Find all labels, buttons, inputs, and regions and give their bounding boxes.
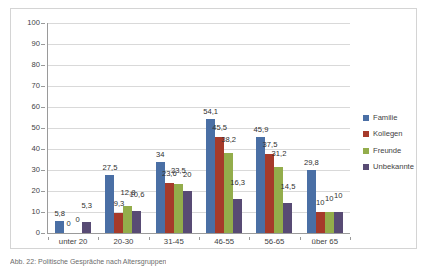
y-axis-tick-label: 20 — [32, 187, 40, 195]
y-axis-tick-mark — [41, 44, 45, 45]
legend-swatch-icon — [363, 164, 369, 170]
bar-slot: 5,3 — [82, 23, 91, 233]
legend-item-label: Freunde — [373, 147, 401, 155]
bar-slot: 9,3 — [114, 23, 123, 233]
y-axis-tick-mark — [41, 233, 45, 234]
bar-value-label: 16,3 — [230, 179, 245, 187]
bar[interactable] — [334, 212, 343, 233]
y-axis-tick-label: 50 — [32, 124, 40, 132]
bar-value-label: 14,5 — [281, 183, 296, 191]
bar[interactable] — [206, 119, 215, 233]
bar[interactable] — [215, 137, 224, 233]
bar[interactable] — [82, 222, 91, 233]
y-axis-tick-labels: 1009080706050403020100 — [11, 23, 45, 234]
legend-item-label: Kollegen — [373, 130, 403, 138]
legend-item[interactable]: Freunde — [363, 146, 425, 155]
y-axis-tick-mark — [41, 149, 45, 150]
bar[interactable] — [316, 212, 325, 233]
x-axis-tick-mark — [98, 237, 99, 240]
bar-slot: 45,5 — [215, 23, 224, 233]
bar-slot: 23,5 — [174, 23, 183, 233]
bar-slot: 0 — [64, 23, 73, 233]
y-axis-tick-label: 80 — [32, 61, 40, 69]
y-axis-tick-mark — [41, 191, 45, 192]
x-axis-category-label: unter 20 — [48, 237, 98, 251]
bar[interactable] — [55, 221, 64, 233]
legend-item[interactable]: Familie — [363, 113, 425, 122]
bar-slot: 14,5 — [283, 23, 292, 233]
bar-slot: 5,8 — [55, 23, 64, 233]
legend-item[interactable]: Kollegen — [363, 130, 425, 139]
bar[interactable] — [274, 167, 283, 233]
bar-group-bars: 3423,623,520 — [149, 23, 199, 233]
bar[interactable] — [256, 137, 265, 233]
bar-value-label: 10,6 — [130, 191, 145, 199]
x-axis-tick-mark — [249, 237, 250, 240]
x-axis-line — [47, 233, 350, 234]
bar[interactable] — [174, 184, 183, 233]
x-axis-tick-mark — [199, 237, 200, 240]
bar-value-label: 10 — [325, 195, 333, 203]
bar-group-bars: 5,8005,3 — [48, 23, 98, 233]
bar-slot: 38,2 — [224, 23, 233, 233]
y-axis-tick-mark — [41, 23, 45, 24]
bar[interactable] — [132, 211, 141, 233]
x-axis-category-label: 31-45 — [149, 237, 199, 251]
y-axis-tick-mark — [41, 65, 45, 66]
x-axis-tick-mark — [350, 237, 351, 240]
x-axis-category-label: 56-65 — [249, 237, 299, 251]
bar-value-label: 20 — [183, 171, 191, 179]
bar-group: 3423,623,520 — [149, 23, 199, 233]
y-axis-tick-label: 0 — [36, 229, 40, 237]
bar[interactable] — [183, 191, 192, 233]
y-axis-tick-label: 60 — [32, 103, 40, 111]
legend-swatch-icon — [363, 148, 369, 154]
chart-frame: 1009080706050403020100 5,8005,327,59,312… — [10, 8, 417, 249]
bar-group: 5,8005,3 — [48, 23, 98, 233]
bar-group-bars: 27,59,312,810,6 — [98, 23, 148, 233]
legend: FamilieKollegenFreundeUnbekannte — [363, 113, 425, 179]
bar-slot: 37,5 — [265, 23, 274, 233]
bar-value-label: 34 — [156, 151, 164, 159]
y-axis-tick-mark — [41, 86, 45, 87]
legend-item[interactable]: Unbekannte — [363, 163, 425, 172]
x-axis-tick-mark — [300, 237, 301, 240]
bar-group-bars: 54,145,538,216,3 — [199, 23, 249, 233]
bar-slot: 31,2 — [274, 23, 283, 233]
y-axis-tick-mark — [41, 107, 45, 108]
y-axis-tick-label: 10 — [32, 208, 40, 216]
bar[interactable] — [265, 154, 274, 233]
y-axis-tick-label: 90 — [32, 40, 40, 48]
x-axis-tick-mark — [149, 237, 150, 240]
bar-value-label: 10 — [334, 192, 342, 200]
y-axis-tick-label: 70 — [32, 82, 40, 90]
bar-slot: 10,6 — [132, 23, 141, 233]
bar-value-label: 5,3 — [81, 202, 92, 210]
bar-group: 27,59,312,810,6 — [98, 23, 148, 233]
x-axis-category-label: über 65 — [300, 237, 350, 251]
bar-group-bars: 45,937,531,214,5 — [249, 23, 299, 233]
bar-slot: 20 — [183, 23, 192, 233]
bar[interactable] — [233, 199, 242, 233]
bar-slot: 23,6 — [165, 23, 174, 233]
legend-swatch-icon — [363, 115, 369, 121]
bar[interactable] — [114, 213, 123, 233]
bar[interactable] — [224, 153, 233, 233]
bar-slot: 16,3 — [233, 23, 242, 233]
y-axis-tick-mark — [41, 212, 45, 213]
bar-value-label: 10 — [316, 199, 324, 207]
bar-slot: 45,9 — [256, 23, 265, 233]
bar[interactable] — [123, 206, 132, 233]
y-axis-tick-label: 30 — [32, 166, 40, 174]
bar-slot: 10 — [334, 23, 343, 233]
x-axis-category-label: 46-55 — [199, 237, 249, 251]
bar[interactable] — [325, 212, 334, 233]
bar[interactable] — [165, 183, 174, 233]
x-axis-category-labels: unter 2020-3031-4546-5556-65über 65 — [48, 237, 350, 251]
y-axis-tick-label: 100 — [27, 19, 40, 27]
bar[interactable] — [307, 170, 316, 233]
bar-slot: 29,8 — [307, 23, 316, 233]
bar[interactable] — [283, 203, 292, 233]
x-axis-category-label: 20-30 — [98, 237, 148, 251]
chart-figure: 1009080706050403020100 5,8005,327,59,312… — [0, 0, 428, 266]
